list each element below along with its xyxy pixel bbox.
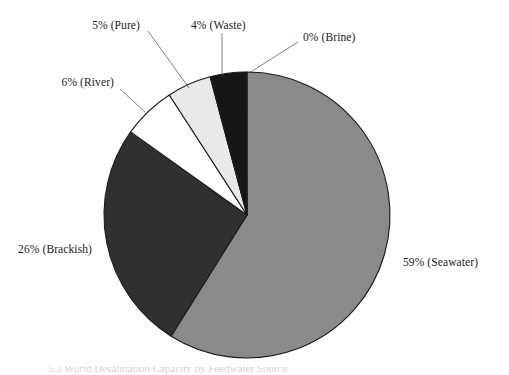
figure-caption: 5.3 World Desalination Capacity by Feedw… [48, 366, 287, 374]
pie-label-river: 6% (River) [62, 76, 114, 89]
figure-canvas: 59% (Seawater) 26% (Brackish) 6% (River)… [0, 0, 509, 375]
leader-line-river [120, 89, 145, 112]
pie-label-brine: 0% (Brine) [303, 31, 355, 44]
pie-chart: 59% (Seawater) 26% (Brackish) 6% (River)… [0, 0, 509, 375]
pie-label-brackish: 26% (Brackish) [18, 243, 92, 256]
figure-caption-strip: 5.3 World Desalination Capacity by Feedw… [0, 366, 509, 375]
pie-label-waste: 4% (Waste) [191, 19, 246, 32]
pie-slices [104, 72, 390, 358]
leader-line-pure [148, 31, 189, 88]
pie-label-seawater: 59% (Seawater) [403, 256, 478, 269]
pie-label-pure: 5% (Pure) [92, 19, 140, 32]
leader-line-brine [249, 42, 298, 73]
